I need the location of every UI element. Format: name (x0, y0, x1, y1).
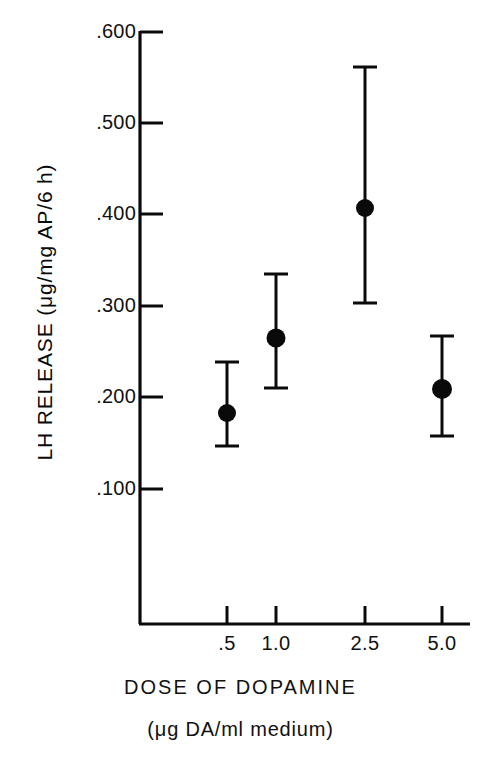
y-tick-label-100: .100 (58, 477, 136, 500)
data-point-group-2[interactable] (353, 67, 377, 303)
y-axis-title-wrapper: LH RELEASE (μg/mg AP/6 h) (0, 0, 60, 620)
data-point-group-1[interactable] (264, 274, 288, 388)
data-marker-1 (267, 329, 286, 348)
x-tick-label-2: 2.5 (335, 632, 395, 655)
y-tick-label-300: .300 (58, 294, 136, 317)
x-axis-ticks (227, 606, 442, 624)
y-tick-label-600: .600 (58, 20, 136, 43)
x-axis-title: DOSE OF DOPAMINE (0, 676, 481, 699)
data-marker-2 (356, 199, 374, 217)
x-tick-label-3: 5.0 (412, 632, 472, 655)
x-tick-label-1: 1.0 (246, 632, 306, 655)
data-point-group-3[interactable] (430, 336, 454, 436)
y-tick-label-200: .200 (58, 385, 136, 408)
y-axis-title: LH RELEASE (μg/mg AP/6 h) (33, 102, 57, 522)
y-axis-ticks (140, 32, 163, 489)
data-marker-0 (218, 404, 236, 422)
figure-canvas: .600 .500 .400 .300 .200 .100 .5 1.0 2.5… (0, 0, 481, 767)
data-point-group-0[interactable] (215, 362, 239, 446)
data-marker-3 (432, 379, 452, 399)
y-tick-label-500: .500 (58, 111, 136, 134)
x-axis-subtitle: (μg DA/ml medium) (0, 718, 481, 741)
y-tick-label-400: .400 (58, 202, 136, 225)
